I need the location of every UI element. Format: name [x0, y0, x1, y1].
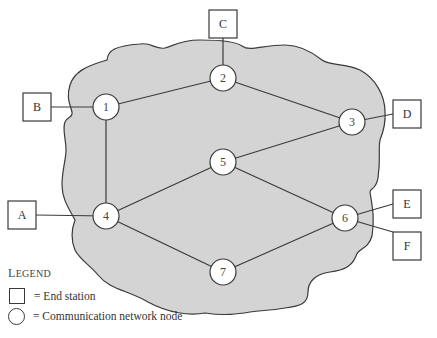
station-label: C [219, 17, 227, 31]
legend-title: LEGEND [8, 266, 182, 281]
end-station-a: A [8, 201, 36, 229]
network-node-3: 3 [339, 109, 365, 135]
end-station-c: C [209, 10, 237, 38]
circle-icon [8, 308, 25, 325]
station-label: D [403, 107, 412, 121]
node-label: 6 [342, 211, 348, 225]
station-label: B [33, 100, 41, 114]
legend-text: = Communication network node [33, 310, 182, 322]
station-label: F [404, 239, 411, 253]
network-node-5: 5 [210, 149, 236, 175]
network-node-7: 7 [210, 259, 236, 285]
legend-text: = End station [34, 290, 95, 302]
node-label: 5 [220, 155, 226, 169]
legend: LEGEND = End station = Communication net… [8, 266, 182, 326]
node-label: 3 [349, 115, 355, 129]
node-label: 2 [220, 71, 226, 85]
node-label: 4 [103, 209, 109, 223]
node-label: 7 [220, 265, 226, 279]
end-station-d: D [393, 100, 421, 128]
legend-item-end-station: = End station [8, 286, 182, 306]
legend-item-network-node: = Communication network node [8, 306, 182, 326]
node-label: 1 [103, 100, 109, 114]
end-station-f: F [393, 232, 421, 260]
network-node-2: 2 [210, 65, 236, 91]
square-icon [9, 288, 25, 304]
network-node-6: 6 [332, 205, 358, 231]
end-station-b: B [23, 93, 51, 121]
network-node-4: 4 [93, 203, 119, 229]
station-label: E [403, 197, 410, 211]
station-label: A [18, 208, 27, 222]
network-node-1: 1 [93, 94, 119, 120]
end-station-e: E [393, 190, 421, 218]
